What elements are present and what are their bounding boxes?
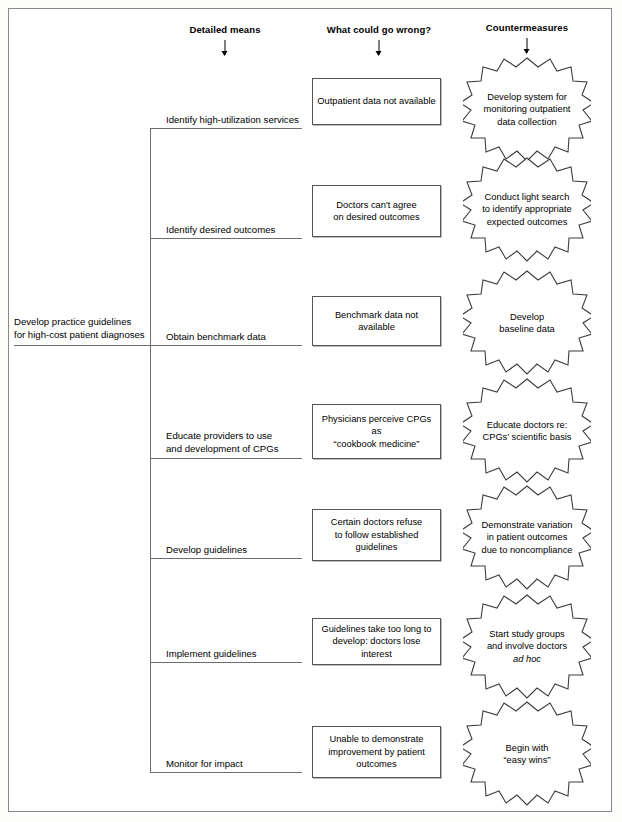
problem-box-7-line-1: Unable to demonstrate (328, 733, 425, 745)
countermeasure-burst-4: Educate doctors re: CPGs’ scientific bas… (463, 376, 591, 486)
problem-box-7: Unable to demonstrate improvement by pat… (312, 726, 441, 778)
means-underline-6 (150, 662, 302, 663)
cm-2-line-2: to identify appropriate (477, 204, 577, 216)
cm-5-line-2: in patient outcomes (477, 532, 577, 544)
countermeasure-burst-3-text: Develop baseline data (477, 311, 577, 336)
problem-box-6-line-1: Guidelines take too long to (317, 623, 436, 635)
problem-box-6-line-2: develop: doctors lose interest (317, 635, 436, 660)
means-underline-1 (150, 128, 302, 129)
diagram-page: Detailed means What could go wrong? Coun… (0, 0, 622, 822)
problem-box-6: Guidelines take too long to develop: doc… (312, 618, 441, 665)
cm-7-line-1: Begin with (477, 742, 577, 754)
means-label-4-line-1: Educate providers to use (166, 430, 279, 443)
means-underline-2 (150, 238, 302, 239)
problem-box-7-line-3: outcomes (328, 758, 425, 770)
down-arrow-icon-countermeasures (527, 38, 528, 53)
cm-6-line-3: ad hoc (477, 653, 577, 665)
means-label-7-line-1: Monitor for impact (166, 758, 243, 771)
countermeasure-burst-7-text: Begin with “easy wins” (477, 742, 577, 767)
problem-box-4-line-1: Physicians perceive CPGs as (317, 413, 436, 438)
problem-box-4: Physicians perceive CPGs as “cookbook me… (312, 404, 441, 459)
means-label-1: Identify high-utilization services (166, 114, 299, 127)
means-label-6-line-1: Implement guidelines (166, 648, 257, 661)
means-underline-5 (150, 558, 302, 559)
means-label-3: Obtain benchmark data (166, 331, 266, 344)
cm-6-line-1: Start study groups (477, 628, 577, 640)
cm-4-line-1: Educate doctors re: (477, 419, 577, 431)
root-label-line-2: for high-cost patient diagnoses (14, 329, 145, 342)
means-label-5: Develop guidelines (166, 544, 247, 557)
countermeasure-burst-4-text: Educate doctors re: CPGs’ scientific bas… (477, 419, 577, 444)
column-header-what-could-go-wrong: What could go wrong? (327, 24, 431, 35)
problem-box-2: Doctors can't agree on desired outcomes (312, 185, 441, 237)
countermeasure-burst-6: Start study groups and involve doctors a… (463, 592, 591, 702)
cm-4-line-2: CPGs’ scientific basis (477, 431, 577, 443)
countermeasure-burst-1: Develop system for monitoring outpatient… (463, 55, 591, 165)
problem-box-3: Benchmark data not available (312, 296, 441, 346)
means-label-4-line-2: and development of CPGs (166, 443, 279, 456)
cm-1-line-2: monitoring outpatient (477, 104, 577, 116)
means-label-2: Identify desired outcomes (166, 224, 275, 237)
means-label-4: Educate providers to use and development… (166, 430, 279, 455)
problem-box-1-line-1: Outpatient data not available (317, 95, 435, 107)
problem-box-5-line-2: to follow established (331, 529, 422, 541)
countermeasure-burst-1-text: Develop system for monitoring outpatient… (477, 91, 577, 128)
down-arrow-icon-detailed-means (225, 40, 226, 55)
column-header-detailed-means: Detailed means (189, 24, 260, 35)
means-underline-4 (150, 458, 302, 459)
problem-box-2-line-1: Doctors can't agree (333, 199, 419, 211)
means-label-2-line-1: Identify desired outcomes (166, 224, 275, 237)
problem-box-2-line-2: on desired outcomes (333, 211, 419, 223)
cm-3-line-1: Develop (477, 311, 577, 323)
means-label-7: Monitor for impact (166, 758, 243, 771)
countermeasure-burst-3: Develop baseline data (463, 268, 591, 378)
problem-box-5-line-3: guidelines (331, 541, 422, 553)
down-arrow-icon-what-could-go-wrong (379, 40, 380, 55)
problem-box-5-line-1: Certain doctors refuse (331, 516, 422, 528)
problem-box-1: Outpatient data not available (312, 78, 441, 125)
means-underline-3 (150, 345, 302, 346)
cm-1-line-1: Develop system for (477, 91, 577, 103)
cm-1-line-3: data collection (477, 116, 577, 128)
problem-box-5: Certain doctors refuse to follow establi… (312, 509, 441, 561)
cm-5-line-1: Demonstrate variation (477, 519, 577, 531)
cm-6-line-2: and involve doctors (477, 641, 577, 653)
root-underline (14, 345, 150, 346)
problem-box-7-line-2: improvement by patient (328, 746, 425, 758)
means-label-3-line-1: Obtain benchmark data (166, 331, 266, 344)
cm-5-line-3: due to noncompliance (477, 544, 577, 556)
countermeasure-burst-5-text: Demonstrate variation in patient outcome… (477, 519, 577, 556)
countermeasure-burst-2: Conduct light search to identify appropr… (463, 155, 591, 265)
cm-7-line-2: “easy wins” (477, 754, 577, 766)
means-label-1-line-1: Identify high-utilization services (166, 114, 299, 127)
cm-2-line-1: Conduct light search (477, 191, 577, 203)
column-header-countermeasures: Countermeasures (486, 22, 568, 33)
cm-3-line-2: baseline data (477, 323, 577, 335)
means-label-6: Implement guidelines (166, 648, 257, 661)
root-label-line-1: Develop practice guidelines (14, 316, 145, 329)
problem-box-3-line-1: Benchmark data not available (317, 309, 436, 334)
countermeasure-burst-2-text: Conduct light search to identify appropr… (477, 191, 577, 228)
means-underline-7 (150, 772, 302, 773)
countermeasure-burst-6-text: Start study groups and involve doctors a… (477, 628, 577, 665)
countermeasure-burst-5: Demonstrate variation in patient outcome… (463, 483, 591, 593)
cm-2-line-3: expected outcomes (477, 216, 577, 228)
tree-spine (150, 128, 151, 773)
problem-box-4-line-2: “cookbook medicine” (317, 438, 436, 450)
means-label-5-line-1: Develop guidelines (166, 544, 247, 557)
countermeasure-burst-7: Begin with “easy wins” (463, 699, 591, 809)
root-node: Develop practice guidelines for high-cos… (14, 316, 145, 341)
